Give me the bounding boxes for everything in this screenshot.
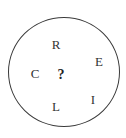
letter-lower-right: I <box>91 93 95 106</box>
letter-top: R <box>52 38 61 51</box>
letter-bottom: L <box>52 100 60 113</box>
missing-letter-question-mark: ? <box>58 68 65 81</box>
letter-upper-right: E <box>95 55 103 68</box>
letter-left: C <box>31 67 40 80</box>
letter-circle-puzzle: R E C ? I L <box>0 0 126 138</box>
